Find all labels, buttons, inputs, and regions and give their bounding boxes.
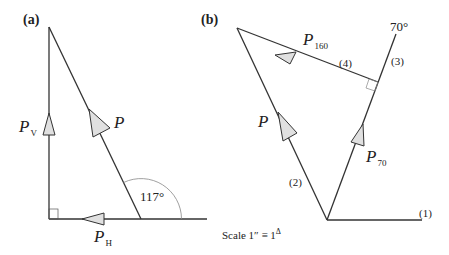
horizontal-arrow-icon (82, 213, 104, 225)
p160-label: P160 (303, 31, 328, 51)
line-label-4: (4) (339, 58, 352, 69)
vertical-force-label: PV (19, 118, 37, 138)
right-angle-marker (49, 209, 58, 219)
line-label-2: (2) (289, 177, 302, 188)
panel-b-label: (b) (201, 13, 218, 27)
p160-arrow-icon (275, 52, 296, 64)
resultant-force-label: P (114, 114, 124, 131)
p70-arrow-icon (351, 124, 364, 146)
p70-label: P70 (366, 148, 386, 168)
resultant-arrow-icon (89, 109, 110, 137)
p-arrow-icon (278, 112, 297, 141)
force-diagram-canvas (0, 0, 449, 255)
angle-label-117: 117° (140, 190, 164, 203)
scale-label: Scale 1″ ≡ 1Δ (222, 228, 281, 241)
horizontal-force-label: PH (94, 228, 112, 248)
p-label-b: P (258, 113, 268, 130)
line-label-3: (3) (391, 56, 404, 67)
line-label-1: (1) (419, 208, 432, 219)
panel-a-label: (a) (23, 13, 39, 27)
angle-label-70: 70° (390, 20, 408, 33)
vertical-arrow-icon (43, 113, 55, 135)
panel-a-geometry (49, 27, 207, 219)
